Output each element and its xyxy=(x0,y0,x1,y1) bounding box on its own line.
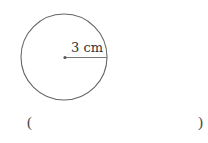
answer-open-paren: ( xyxy=(27,114,32,131)
center-point xyxy=(63,56,66,59)
radius-label: 3 cm xyxy=(71,40,103,55)
answer-close-paren: ) xyxy=(198,114,203,131)
